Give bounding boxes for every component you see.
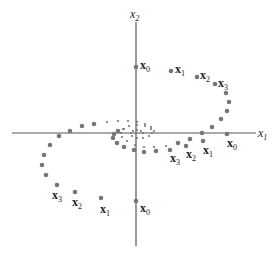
trajectory-point	[120, 132, 122, 134]
trajectory-point	[165, 145, 167, 147]
trajectory-point	[80, 124, 85, 129]
point-label: x3	[218, 77, 228, 94]
trajectory-point	[121, 136, 123, 138]
trajectory-point	[106, 121, 108, 123]
trajectory-point	[136, 137, 138, 139]
trajectory-point	[131, 135, 133, 137]
phase-plane-diagram	[0, 0, 278, 253]
trajectory-point	[140, 130, 142, 132]
point-label: x2	[186, 148, 196, 165]
trajectory-point	[112, 132, 117, 137]
trajectory-point	[68, 129, 73, 134]
trajectory-point	[132, 148, 137, 153]
point-label: x0	[140, 59, 150, 76]
trajectory-point	[148, 135, 150, 137]
trajectory-point	[92, 122, 97, 127]
trajectory-point	[40, 163, 45, 168]
trajectory-point	[116, 129, 121, 134]
trajectory-point	[57, 134, 62, 139]
trajectory-point	[144, 125, 146, 127]
trajectory-point	[134, 65, 139, 70]
trajectory-point	[136, 124, 138, 126]
trajectory-point	[227, 100, 232, 105]
trajectory-point	[213, 82, 218, 87]
point-label: x0	[140, 202, 150, 219]
trajectory-point	[144, 123, 146, 125]
trajectory-point	[142, 132, 144, 134]
trajectory-point	[200, 131, 205, 136]
trajectory-point	[150, 126, 152, 128]
trajectory-point	[188, 137, 193, 142]
trajectory-point	[210, 125, 215, 130]
point-label: x3	[52, 189, 62, 206]
trajectory-point	[134, 199, 139, 204]
trajectory-point	[130, 132, 132, 134]
trajectory-point	[115, 141, 120, 146]
x2-axis-label: x2	[130, 8, 139, 25]
trajectory-point	[142, 137, 144, 139]
trajectory-point	[176, 141, 181, 146]
point-label: x3	[170, 152, 180, 169]
trajectory-point	[73, 190, 78, 195]
point-label: x2	[200, 69, 210, 86]
trajectory-point	[123, 128, 125, 130]
point-label: x2	[72, 196, 82, 213]
trajectory-point	[55, 183, 60, 188]
trajectory-point	[127, 120, 129, 122]
trajectory-point	[117, 120, 119, 122]
trajectory-point	[134, 144, 136, 146]
trajectory-point	[195, 75, 200, 80]
trajectory-point	[154, 149, 159, 154]
trajectory-point	[44, 173, 49, 178]
point-label: x1	[175, 63, 185, 80]
trajectory-point	[225, 109, 230, 114]
point-label: x1	[100, 203, 110, 220]
trajectory-point	[42, 153, 47, 158]
trajectory-point	[111, 136, 116, 141]
trajectory-point	[169, 69, 174, 74]
point-label: x0	[227, 137, 237, 154]
trajectory-point	[122, 145, 127, 150]
trajectory-point	[136, 121, 138, 123]
trajectory-point	[153, 146, 155, 148]
trajectory-point	[142, 150, 147, 155]
trajectory-point	[143, 146, 145, 148]
trajectory-point	[132, 130, 134, 132]
trajectory-point	[99, 196, 104, 201]
trajectory-point	[136, 129, 138, 131]
point-label: x1	[203, 144, 213, 161]
x1-axis-label: x1	[258, 127, 267, 144]
trajectory-point	[219, 117, 224, 122]
trajectory-point	[150, 128, 152, 130]
trajectory-point	[153, 130, 155, 132]
trajectory-point	[128, 125, 130, 127]
trajectory-point	[126, 140, 128, 142]
trajectory-point	[151, 132, 153, 134]
trajectory-point	[48, 143, 53, 148]
